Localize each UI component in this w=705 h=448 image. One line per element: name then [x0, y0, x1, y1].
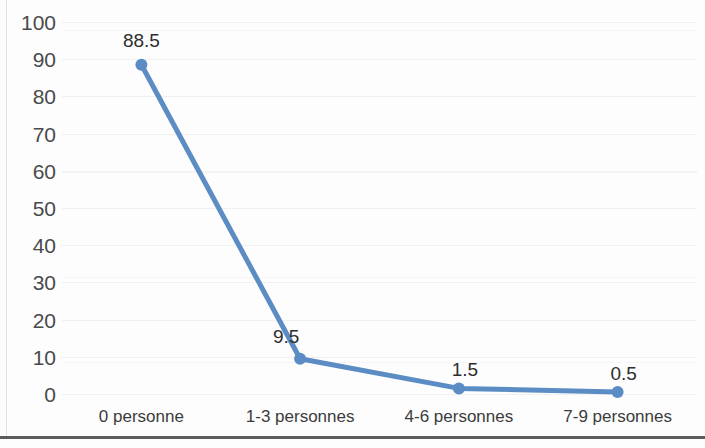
gridline [62, 282, 697, 283]
gridline [62, 320, 697, 321]
gridline [62, 96, 697, 97]
scan-artifact [62, 362, 697, 363]
data-point-label: 9.5 [273, 327, 299, 346]
y-axis-tick-label: 100 [8, 12, 56, 33]
gridline [62, 245, 697, 246]
y-axis-tick-label: 50 [8, 198, 56, 219]
x-axis-tick-labels: 0 personne1-3 personnes4-6 personnes7-9 … [0, 408, 705, 436]
gridline [62, 394, 697, 395]
chart-bottom-border [0, 436, 705, 439]
y-axis-tick-labels: 1009080706050403020100 [0, 0, 56, 448]
y-axis-tick-label: 80 [8, 86, 56, 107]
plot-area [62, 22, 697, 394]
y-axis-tick-label: 70 [8, 124, 56, 145]
x-axis-tick-label: 0 personne [99, 408, 184, 425]
gridline [62, 357, 697, 358]
data-point-label: 0.5 [610, 364, 636, 383]
y-axis-tick-label: 30 [8, 272, 56, 293]
data-point-label: 88.5 [123, 31, 160, 50]
y-axis-tick-label: 20 [8, 310, 56, 331]
y-axis-tick-label: 40 [8, 235, 56, 256]
x-axis-tick-label: 4-6 personnes [405, 408, 514, 425]
y-axis-tick-label: 10 [8, 347, 56, 368]
x-axis-tick-label: 7-9 personnes [563, 408, 672, 425]
gridline [62, 208, 697, 209]
gridline [62, 22, 697, 23]
x-axis-tick-label: 1-3 personnes [246, 408, 355, 425]
y-axis-tick-label: 60 [8, 161, 56, 182]
scan-artifact [62, 172, 697, 173]
gridline [62, 59, 697, 60]
data-point-label: 1.5 [452, 360, 478, 379]
scan-artifact [62, 277, 697, 278]
y-axis-tick-label: 90 [8, 49, 56, 70]
gridline [62, 134, 697, 135]
line-chart: 1009080706050403020100 0 personne1-3 per… [0, 0, 705, 448]
y-axis-tick-label: 0 [8, 384, 56, 405]
